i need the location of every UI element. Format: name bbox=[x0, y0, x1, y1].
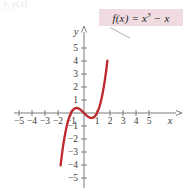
y-tick-label: 5 bbox=[73, 43, 78, 53]
x-tick-labels: −5 −4 −3 −2 −1 1 2 3 4 5 bbox=[14, 116, 152, 126]
x-tick-label: −3 bbox=[40, 116, 50, 126]
function-graph-figure: y, y(x) bbox=[0, 0, 187, 195]
y-tick-label: −4 bbox=[68, 160, 78, 170]
x-tick-label: 5 bbox=[147, 116, 152, 126]
x-tick-label: 1 bbox=[95, 116, 100, 126]
y-tick-label: 2 bbox=[73, 82, 78, 92]
x-tick-label: −4 bbox=[27, 116, 37, 126]
callout-leader-line bbox=[110, 28, 130, 39]
cartesian-plot: −5 −4 −3 −2 −1 1 2 3 4 5 5 4 3 2 1 −1 −2… bbox=[0, 0, 187, 195]
y-tick-label: −5 bbox=[68, 173, 78, 183]
x-tick-label: 4 bbox=[134, 116, 139, 126]
y-tick-label: 4 bbox=[73, 56, 78, 66]
y-axis-label: y bbox=[73, 26, 79, 37]
x-tick-label: −2 bbox=[53, 116, 63, 126]
function-formula-callout: f(x) = x3 − x bbox=[99, 9, 183, 26]
function-formula-text: f(x) = x3 − x bbox=[113, 11, 170, 24]
formula-base: f(x) = x bbox=[113, 12, 148, 24]
formula-tail: − x bbox=[151, 12, 170, 24]
y-tick-label: −2 bbox=[68, 134, 78, 144]
x-tick-label: 2 bbox=[108, 116, 113, 126]
x-axis-label: x bbox=[167, 115, 173, 126]
y-tick-label: −3 bbox=[68, 147, 78, 157]
y-tick-label: −1 bbox=[68, 121, 78, 131]
x-tick-label: 3 bbox=[121, 116, 126, 126]
y-tick-label: 3 bbox=[73, 69, 78, 79]
x-tick-label: −5 bbox=[14, 116, 24, 126]
y-tick-label: 1 bbox=[73, 95, 78, 105]
